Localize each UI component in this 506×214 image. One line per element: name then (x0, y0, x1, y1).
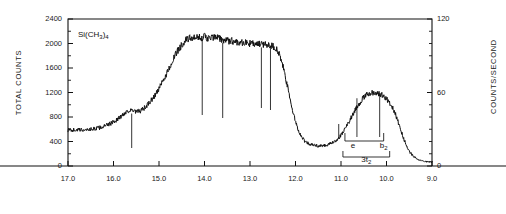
y-axis-left-tick-label: 400 (28, 137, 62, 146)
x-axis-tick-label: 12.0 (279, 174, 313, 183)
y-axis-right-tick-label: 0 (437, 161, 471, 170)
y-axis-right-tick-label: 60 (437, 88, 471, 97)
spectrum-trace (68, 33, 432, 162)
x-axis-tick-label: 13.0 (233, 174, 267, 183)
y-axis-right-tick-label: 120 (437, 14, 471, 23)
x-axis-tick-label: 15.0 (142, 174, 176, 183)
spectrum-figure: TOTAL COUNTS COUNTS/SECOND Si(CH3)4 e b2… (0, 0, 506, 214)
y-axis-left-tick-label: 0 (28, 161, 62, 170)
x-axis-tick-label: 14.0 (188, 174, 222, 183)
x-axis-tick-label: 9.0 (415, 174, 449, 183)
x-axis-tick-label: 17.0 (51, 174, 85, 183)
y-axis-left-tick-label: 1200 (28, 88, 62, 97)
bracket-3t2 (343, 151, 390, 157)
y-axis-left-tick-label: 2400 (28, 14, 62, 23)
x-axis-tick-label: 16.0 (97, 174, 131, 183)
x-axis-tick-label: 11.0 (324, 174, 358, 183)
y-axis-left-tick-label: 1600 (28, 63, 62, 72)
bracket-e-b2 (345, 133, 384, 141)
y-axis-left-tick-label: 800 (28, 112, 62, 121)
y-axis-left-tick-label: 2000 (28, 39, 62, 48)
x-axis-tick-label: 10.0 (370, 174, 404, 183)
